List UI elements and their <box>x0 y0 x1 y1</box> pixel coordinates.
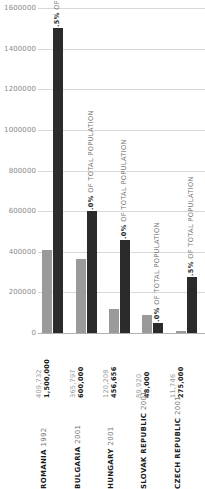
value-label-pair: 409,7321,500,000 <box>43 340 59 398</box>
category-year: 2001 <box>140 391 148 410</box>
percent-value: 2.5% <box>187 261 195 281</box>
category-year: 2001 <box>74 425 82 444</box>
value-label-pair: 11,746275,000 <box>177 340 193 398</box>
category-labels-row: ROMANIA 1992BULGARIA 2001HUNGARY 2001SLO… <box>38 402 205 489</box>
category-year: 2001 <box>174 396 182 415</box>
estimate-value-label: 275,000 <box>177 367 185 398</box>
bar-census-slovak-republic <box>142 315 152 333</box>
bar-chart: 409,7321,500,000365,797600,000120,208456… <box>0 0 205 489</box>
value-label-pair: 89,92048,000 <box>143 340 159 398</box>
category-year: 1992 <box>40 428 48 447</box>
y-axis-tick-label: 1200000 <box>0 85 36 93</box>
category-label: CZECH REPUBLIC 2001 <box>174 396 182 489</box>
y-axis-tick-label: 0 <box>0 329 36 337</box>
bar-estimate-romania <box>53 28 63 333</box>
estimate-value-label: 600,000 <box>77 367 85 398</box>
percent-annotation: 2.5% OF TOTAL POPULATION <box>187 176 195 281</box>
bar-census-romania <box>42 250 52 333</box>
value-label-pair: 120,208456,656 <box>110 340 126 398</box>
bar-estimate-bulgaria <box>87 211 97 333</box>
bar-census-czech-republic <box>176 331 186 333</box>
estimate-value-label: 456,656 <box>110 367 118 398</box>
y-axis-tick-label: 200000 <box>0 288 36 296</box>
y-axis-tick-label: 800000 <box>0 167 36 175</box>
census-value-label: 409,732 <box>35 369 43 398</box>
percent-value: 9.0% <box>153 308 161 328</box>
percent-annotation: 5.0% OF TOTAL POPULATION <box>120 139 128 244</box>
percent-value: 6.5% <box>53 13 61 33</box>
category-year: 2001 <box>107 427 115 446</box>
census-value-label: 365,797 <box>69 369 77 398</box>
percent-annotation: 7.0% OF TOTAL POPULATION <box>87 110 95 215</box>
y-axis-tick-label: 600000 <box>0 207 36 215</box>
bar-estimate-hungary <box>120 240 130 333</box>
category-label: HUNGARY 2001 <box>107 427 115 489</box>
census-value-label: 11,746 <box>169 374 177 398</box>
bar-estimate-czech-republic <box>187 277 197 333</box>
census-value-label: 120,208 <box>102 369 110 398</box>
y-axis-tick-label: 1600000 <box>0 4 36 12</box>
y-axis-tick-label: 1000000 <box>0 126 36 134</box>
category-label: SLOVAK REPUBLIC 2001 <box>140 391 148 489</box>
category-label: BULGARIA 2001 <box>74 425 82 489</box>
y-axis-tick-label: 400000 <box>0 248 36 256</box>
bar-census-bulgaria <box>76 259 86 333</box>
percent-annotation: 9.0% OF TOTAL POPULATION <box>153 222 161 327</box>
estimate-value-label: 1,500,000 <box>43 359 51 398</box>
category-label: ROMANIA 1992 <box>40 428 48 489</box>
percent-annotation: 6.5% OF TOTAL POPULATION <box>53 0 61 32</box>
y-axis-tick-label: 1400000 <box>0 45 36 53</box>
value-label-pair: 365,797600,000 <box>77 340 93 398</box>
axis-baseline <box>38 333 205 334</box>
percent-value: 7.0% <box>87 195 95 215</box>
bar-census-hungary <box>109 309 119 333</box>
percent-value: 5.0% <box>120 225 128 245</box>
value-labels-row: 409,7321,500,000365,797600,000120,208456… <box>38 340 205 398</box>
